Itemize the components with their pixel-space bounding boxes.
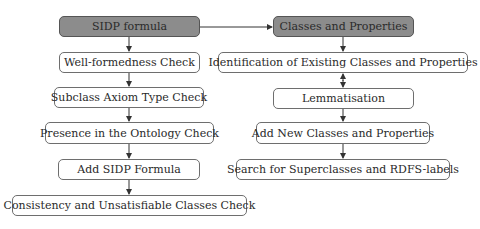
add-new-classes-box: Add New Classes and Properties (256, 122, 430, 144)
sidp-formula-header: SIDP formula (59, 16, 200, 37)
identification-box: Identification of Existing Classes and P… (218, 52, 468, 73)
presence-in-ontology-check-box: Presence in the Ontology Check (45, 122, 214, 144)
lemmatisation-box: Lemmatisation (273, 88, 414, 109)
subclass-axiom-type-check-box: Subclass Axiom Type Check (54, 87, 204, 108)
add-sidp-formula-box: Add SIDP Formula (58, 159, 200, 180)
well-formedness-check-box: Well-formedness Check (59, 52, 200, 73)
search-superclasses-box: Search for Superclasses and RDFS-labels (236, 159, 450, 180)
consistency-check-box: Consistency and Unsatisfiable Classes Ch… (12, 195, 247, 216)
classes-and-properties-header: Classes and Properties (273, 16, 414, 37)
